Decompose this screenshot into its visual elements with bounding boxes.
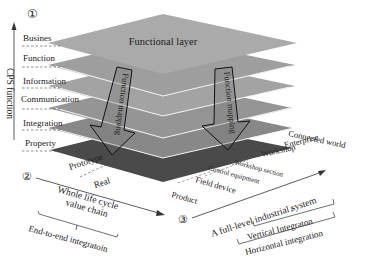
cps-diagram: ① CPS function Functional layer Busines … xyxy=(0,0,369,264)
axis1-marker: ① xyxy=(27,7,38,21)
layer-label-property: Property xyxy=(25,138,56,148)
layer-label-business: Busines xyxy=(23,33,52,43)
arrow-right-icon xyxy=(156,210,165,216)
axis1-title: CPS function xyxy=(5,68,15,119)
layer-label-communication: Communication xyxy=(21,94,79,104)
arrow-right-icon xyxy=(318,170,326,176)
axis2-marker: ② xyxy=(22,170,32,182)
bracket-label: End-to-end integratoin xyxy=(27,223,109,254)
axis2-item-real: Real xyxy=(93,175,112,190)
layer-label-integration: Integration xyxy=(23,118,63,128)
axis3-marker: ③ xyxy=(178,213,188,225)
layer-label-function: Function xyxy=(23,53,56,63)
level-product: Product xyxy=(170,189,199,206)
arrow-up-icon xyxy=(12,22,17,30)
layer-label-information: Information xyxy=(23,76,66,86)
functional-layer-label: Functional layer xyxy=(129,36,198,47)
